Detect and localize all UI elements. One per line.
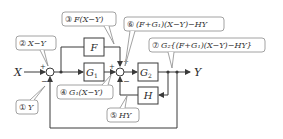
callout-5-text: ⑤HY xyxy=(110,111,132,120)
sum1-plus-sign: + xyxy=(40,63,46,71)
block-diagram: X + − F G1 + + − G2 Y H ②X−Y ③F(X−Y) ⑥(F… xyxy=(0,0,283,139)
summing-junction-2 xyxy=(116,68,124,76)
callout-5-pointer xyxy=(120,96,127,108)
callout-6-text: ⑥(F+G₁)(X−Y)−HY xyxy=(127,20,208,29)
callout-6-pointer xyxy=(125,31,135,66)
output-label: Y xyxy=(194,66,203,79)
callout-1-pointer xyxy=(30,86,45,100)
summing-junction-1 xyxy=(46,68,54,76)
block-f-label: F xyxy=(90,42,99,53)
callout-3-text: ③F(X−Y) xyxy=(65,15,103,24)
sum2-plus-sign-g1: + xyxy=(109,63,115,71)
block-h-label: H xyxy=(143,90,153,101)
callout-3-pointer xyxy=(104,26,114,44)
callout-2-text: ②X−Y xyxy=(19,39,46,48)
callout-4-text: ④G₁(X−Y) xyxy=(60,88,103,97)
callout-7-text: ⑦G₂{(F+G₁)(X−Y)−HY} xyxy=(152,41,252,50)
sum2-minus-sign: − xyxy=(123,77,130,86)
callout-7-pointer xyxy=(168,52,174,68)
input-label: X xyxy=(13,66,23,79)
line-to-f xyxy=(61,47,84,72)
sum1-minus-sign: − xyxy=(41,77,48,86)
line-to-h xyxy=(159,72,168,95)
